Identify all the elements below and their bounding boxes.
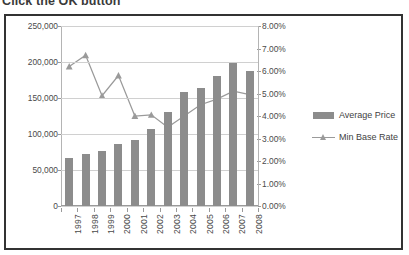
legend-item[interactable]: Average Price xyxy=(310,104,402,126)
line-marker-triangle xyxy=(82,52,89,58)
x-axis: 1997199819992000200120022003200420052006… xyxy=(61,208,258,252)
x-axis-tickmark xyxy=(94,208,95,212)
y-axis-left-tick-label: 250,000 xyxy=(10,21,58,31)
line-marker-triangle xyxy=(66,63,73,69)
x-axis-tickmark xyxy=(258,208,259,212)
legend-item-label: Average Price xyxy=(336,110,395,120)
x-axis-category-label: 2007 xyxy=(237,214,247,234)
y-axis-right-tick-label: 5.00% xyxy=(262,89,308,99)
y-axis-right-tick-label: 6.00% xyxy=(262,66,308,76)
y-axis-left-tick-label: 200,000 xyxy=(10,57,58,67)
axis-right-line xyxy=(258,26,259,206)
line-marker-triangle xyxy=(115,72,122,78)
y-axis-left: 050,000100,000150,000200,000250,000 xyxy=(6,26,58,206)
x-axis-category-label: 2008 xyxy=(254,214,264,234)
bar xyxy=(131,140,139,206)
x-axis-tickmark xyxy=(143,208,144,212)
y-axis-left-tick-label: 50,000 xyxy=(10,165,58,175)
gridline xyxy=(61,206,258,207)
gridline xyxy=(61,26,258,27)
y-axis-right: 0.00%1.00%2.00%3.00%4.00%5.00%6.00%7.00%… xyxy=(262,26,310,206)
legend-bar-swatch-icon xyxy=(313,112,334,119)
x-axis-category-label: 2006 xyxy=(221,214,231,234)
chart-frame: 050,000100,000150,000200,000250,000 0.00… xyxy=(4,14,403,250)
x-axis-tickmark xyxy=(225,208,226,212)
y-axis-right-tick-label: 4.00% xyxy=(262,111,308,121)
bar xyxy=(114,144,122,206)
y-axis-left-tick-label: 100,000 xyxy=(10,129,58,139)
y-axis-right-tick-label: 0.00% xyxy=(262,201,308,211)
page-heading: Click the OK button xyxy=(2,0,121,8)
y-axis-right-tick-label: 1.00% xyxy=(262,179,308,189)
bar xyxy=(229,63,237,206)
bar xyxy=(147,129,155,206)
bar xyxy=(164,112,172,206)
x-axis-category-label: 1999 xyxy=(106,214,116,234)
x-axis-category-label: 2005 xyxy=(205,214,215,234)
x-axis-category-label: 2001 xyxy=(139,214,149,234)
x-axis-tickmark xyxy=(176,208,177,212)
bar xyxy=(82,154,90,206)
x-axis-category-label: 1998 xyxy=(90,214,100,234)
x-axis-category-label: 2002 xyxy=(155,214,165,234)
bar xyxy=(180,92,188,206)
y-axis-right-tick-label: 8.00% xyxy=(262,21,308,31)
x-axis-category-label: 2004 xyxy=(188,214,198,234)
y-axis-left-tick-label: 0 xyxy=(10,201,58,211)
legend-item-label: Min Base Rate xyxy=(336,132,398,142)
chart-legend: Average PriceMin Base Rate xyxy=(310,104,402,148)
bar xyxy=(246,71,254,206)
y-axis-left-tick-label: 150,000 xyxy=(10,93,58,103)
x-axis-tickmark xyxy=(61,208,62,212)
x-axis-tickmark xyxy=(110,208,111,212)
bar xyxy=(197,88,205,206)
y-axis-right-tick-label: 3.00% xyxy=(262,134,308,144)
x-axis-category-label: 2003 xyxy=(172,214,182,234)
bar xyxy=(98,151,106,206)
bar xyxy=(213,76,221,206)
legend-line-triangle-icon xyxy=(312,133,335,142)
x-axis-tickmark xyxy=(209,208,210,212)
y-axis-right-tick-label: 7.00% xyxy=(262,44,308,54)
y-axis-right-tick-label: 2.00% xyxy=(262,156,308,166)
x-axis-category-label: 2000 xyxy=(122,214,132,234)
x-axis-tickmark xyxy=(192,208,193,212)
x-axis-tickmark xyxy=(242,208,243,212)
plot-area xyxy=(61,26,258,206)
x-axis-tickmark xyxy=(127,208,128,212)
line-path xyxy=(69,55,250,127)
x-axis-tickmark xyxy=(160,208,161,212)
bar xyxy=(65,158,73,206)
legend-item[interactable]: Min Base Rate xyxy=(310,126,402,148)
x-axis-tickmark xyxy=(77,208,78,212)
x-axis-category-label: 1997 xyxy=(73,214,83,234)
